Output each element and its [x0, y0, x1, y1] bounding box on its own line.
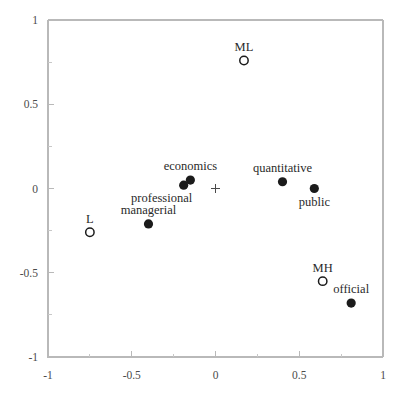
x-tick-label: -0.5: [123, 369, 141, 381]
y-tick-label: 0.5: [24, 98, 39, 110]
x-tick-label: 0.5: [292, 369, 307, 381]
x-tick-label: 1: [380, 369, 386, 381]
plot-canvas: -1-0.500.51-1-0.500.51 MLLMHeconomicspro…: [0, 0, 405, 403]
point-label: MH: [313, 261, 333, 275]
point-labels-group: MLLMHeconomicsprofessionalquantitativepu…: [86, 40, 370, 296]
origin-cross-marker: [211, 184, 220, 193]
data-point-open: [240, 56, 248, 64]
tick-labels-group: -1-0.500.51-1-0.500.51: [20, 14, 386, 381]
scatter-plot-figure: -1-0.500.51-1-0.500.51 MLLMHeconomicspro…: [0, 0, 405, 403]
y-tick-label: -1: [28, 351, 38, 363]
point-label: economics: [164, 159, 218, 173]
data-point-filled: [144, 219, 153, 228]
point-label: ML: [235, 40, 254, 54]
point-label: official: [333, 282, 369, 296]
x-tick-label: -1: [43, 369, 53, 381]
data-point-open: [86, 228, 94, 236]
data-point-open: [319, 277, 327, 285]
y-tick-label: 1: [32, 14, 38, 26]
point-label: L: [86, 212, 94, 226]
data-point-filled: [179, 181, 188, 190]
x-tick-label: 0: [213, 369, 219, 381]
y-tick-label: 0: [32, 183, 38, 195]
data-point-filled: [278, 177, 287, 186]
point-label: quantitative: [253, 161, 312, 175]
data-point-filled: [347, 298, 356, 307]
point-label: public: [299, 195, 331, 209]
point-label: managerial: [121, 203, 177, 217]
y-tick-label: -0.5: [20, 267, 38, 279]
data-point-filled: [310, 184, 319, 193]
